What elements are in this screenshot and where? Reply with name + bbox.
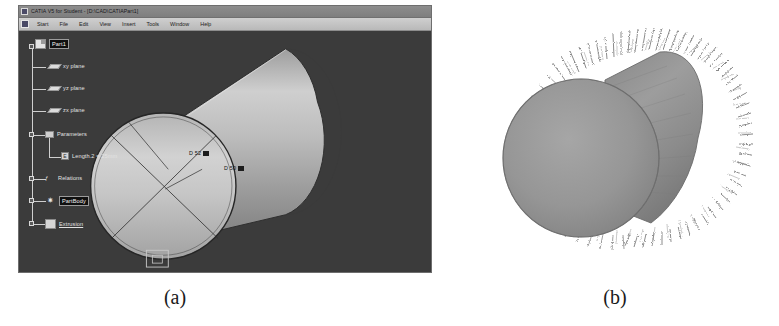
menu-item-tools[interactable]: Tools	[141, 20, 164, 29]
figure-panel-a: CATIA V5 for Student - [D:\CAD\CATIAPart…	[18, 5, 432, 273]
bristle-roller-render	[455, 18, 765, 276]
catia-application-window: CATIA V5 for Student - [D:\CAD\CATIAPart…	[18, 5, 432, 273]
window-title: CATIA V5 for Student - [D:\CAD\CATIAPart…	[31, 8, 138, 15]
tree-item-yz-plane[interactable]: yz plane	[49, 84, 85, 92]
menu-item-help[interactable]: Help	[195, 20, 216, 29]
cad-body: D 52 D 50	[19, 31, 431, 272]
tree-item-length-parameter-label: Length.2 = 25mm	[72, 152, 117, 160]
tree-sub-trunk-line	[49, 135, 50, 157]
tree-item-parameters[interactable]: Parameters	[45, 130, 87, 138]
tree-item-partbody[interactable]: ✷ PartBody	[45, 196, 89, 206]
relations-icon: ƒ	[45, 174, 55, 182]
dimension-d52-badge	[203, 151, 209, 156]
dimension-d52[interactable]: D 52	[189, 150, 209, 156]
tree-item-extrusion[interactable]: Extrusion	[45, 219, 83, 229]
figure-panel-b	[455, 18, 765, 276]
tree-branch-line	[32, 111, 46, 112]
length-parameter-icon: E	[61, 152, 69, 160]
part-icon	[35, 39, 46, 49]
title-bar: CATIA V5 for Student - [D:\CAD\CATIAPart…	[19, 6, 431, 18]
roller-front-face	[503, 79, 659, 237]
partbody-icon: ✷	[45, 196, 56, 206]
tree-item-parameters-label: Parameters	[57, 130, 87, 138]
tree-expand-node-partbody[interactable]	[29, 198, 34, 203]
tree-item-relations[interactable]: ƒ Relations	[45, 174, 82, 182]
specification-tree[interactable]: Part1 xy plane yz plane zx plane	[19, 31, 154, 272]
tree-expand-node-parameters[interactable]	[29, 132, 34, 137]
menu-bar: Start File Edit View Insert Tools Window…	[19, 18, 431, 31]
tree-item-zx-plane[interactable]: zx plane	[49, 106, 85, 114]
start-menu-icon[interactable]	[21, 20, 29, 28]
tree-item-zx-plane-label: zx plane	[63, 106, 85, 114]
plane-icon	[47, 108, 61, 113]
caption-b: (b)	[565, 286, 665, 309]
menu-item-window[interactable]: Window	[165, 20, 194, 29]
tree-item-part1-label: Part1	[49, 39, 69, 49]
tree-item-partbody-label: PartBody	[59, 196, 89, 206]
menu-item-start[interactable]: Start	[32, 20, 53, 29]
tree-item-xy-plane-label: xy plane	[63, 62, 85, 70]
tree-item-part1[interactable]: Part1	[35, 39, 69, 49]
plane-icon	[47, 86, 61, 91]
dimension-d52-label: D 52	[189, 150, 201, 156]
dimension-d50-badge	[238, 166, 244, 171]
tree-item-xy-plane[interactable]: xy plane	[49, 62, 85, 70]
tree-sub-branch-line	[49, 157, 61, 158]
tree-branch-line	[32, 179, 46, 180]
catia-app-icon	[21, 8, 28, 15]
tree-branch-line	[32, 224, 46, 225]
tree-item-extrusion-label: Extrusion	[59, 220, 83, 228]
menu-item-edit[interactable]: Edit	[74, 20, 93, 29]
extrusion-icon	[45, 219, 56, 229]
tree-item-yz-plane-label: yz plane	[63, 84, 85, 92]
dimension-d50-label: D 50	[224, 165, 236, 171]
tree-expand-node-extrusion[interactable]	[29, 221, 34, 226]
tree-item-length-parameter[interactable]: E Length.2 = 25mm	[61, 152, 117, 160]
tree-branch-line	[32, 135, 46, 136]
caption-a: (a)	[125, 286, 225, 309]
dimension-d50[interactable]: D 50	[224, 165, 244, 171]
menu-item-file[interactable]: File	[54, 20, 73, 29]
tree-branch-line	[32, 89, 46, 90]
menu-item-view[interactable]: View	[94, 20, 116, 29]
plane-icon	[47, 64, 61, 69]
tree-expand-node-relations[interactable]	[29, 176, 34, 181]
menu-item-insert[interactable]: Insert	[117, 20, 140, 29]
tree-branch-line	[32, 67, 46, 68]
parameters-icon	[45, 131, 54, 138]
tree-item-relations-label: Relations	[58, 174, 82, 182]
tree-branch-line	[32, 201, 46, 202]
tree-expand-node-root[interactable]	[29, 44, 34, 49]
